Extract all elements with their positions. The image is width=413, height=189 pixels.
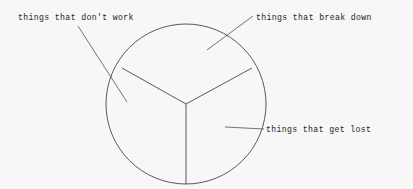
pie-spoke-upper-left [122, 68, 186, 104]
leader-line-break-down [207, 16, 253, 50]
pie-chart-svg: things that don't work things that break… [0, 0, 413, 189]
pie-chart-figure: things that don't work things that break… [0, 0, 413, 189]
slice-label-break-down: things that break down [256, 13, 372, 22]
pie-spoke-upper-right [186, 68, 252, 104]
slice-label-dont-work: things that don't work [18, 13, 134, 22]
slice-label-get-lost: things that get lost [266, 125, 371, 134]
leader-line-dont-work [78, 26, 127, 102]
leader-line-get-lost [225, 127, 264, 129]
